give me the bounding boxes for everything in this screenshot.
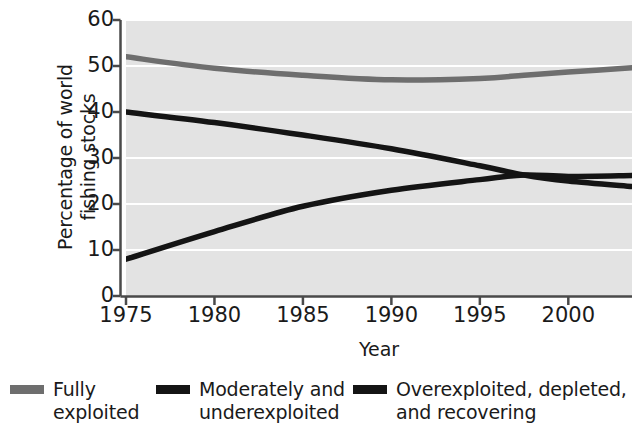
legend-swatch-fully-exploited (10, 385, 44, 394)
y-tick-label: 60 (60, 9, 114, 30)
legend-label-moderately-underexploited: Moderately and underexploited (199, 378, 345, 424)
y-axis-tick-labels: 0102030405060 (52, 0, 114, 310)
x-axis-title: Year (126, 338, 632, 360)
legend-entry-moderately-underexploited: Moderately and underexploited (156, 378, 345, 424)
chart-legend: Fully exploited Moderately and underexpl… (8, 378, 632, 426)
y-tick-label: 50 (60, 55, 114, 76)
x-tick-label: 1980 (169, 303, 259, 327)
legend-swatch-overexploited-depleted-recovering (353, 385, 387, 394)
y-tick-label: 30 (60, 147, 114, 168)
y-tick-label: 40 (60, 101, 114, 122)
legend-entry-fully-exploited: Fully exploited (10, 378, 139, 424)
legend-entry-overexploited-depleted-recovering: Overexploited, depleted, and recovering (353, 378, 627, 424)
series-canvas (126, 20, 632, 296)
x-tick-label: 1985 (258, 303, 348, 327)
legend-label-fully-exploited: Fully exploited (53, 378, 139, 424)
series-line-0 (126, 57, 632, 80)
legend-swatch-moderately-underexploited (156, 385, 190, 394)
x-tick-label: 1995 (435, 303, 525, 327)
x-tick-label: 1990 (346, 303, 436, 327)
y-tick-label: 20 (60, 193, 114, 214)
x-tick-label: 2000 (523, 303, 613, 327)
y-tick-label: 10 (60, 239, 114, 260)
legend-label-overexploited-depleted-recovering: Overexploited, depleted, and recovering (396, 378, 627, 424)
fishing-stocks-line-chart: Percentage of world fishing stocks 01020… (0, 0, 632, 430)
gridlines (126, 20, 632, 250)
x-tick-label: 1975 (81, 303, 171, 327)
x-axis-tick-labels: 197519801985199019952000 (0, 303, 632, 333)
series-line-2 (126, 175, 632, 259)
plot-area (126, 20, 632, 296)
